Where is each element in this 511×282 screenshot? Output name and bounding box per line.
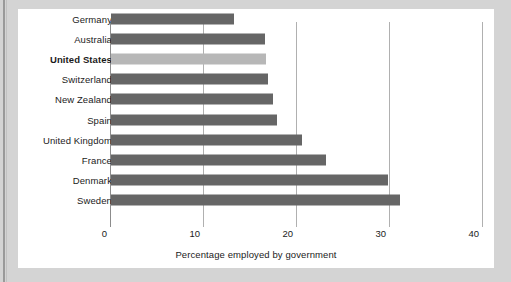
category-label-united-kingdom: United Kingdom — [43, 134, 112, 145]
category-label-denmark: Denmark — [73, 174, 112, 185]
page-gutter-rule-secondary — [6, 0, 7, 282]
x-axis-title: Percentage employed by government — [18, 249, 494, 260]
figure-root: GermanyAustraliaUnited StatesSwitzerland… — [0, 0, 511, 282]
bar-spain — [111, 114, 277, 125]
bar-denmark — [111, 174, 388, 185]
x-tick-label-40: 40 — [468, 228, 482, 239]
bar-row: Spain — [18, 109, 494, 129]
category-label-france: France — [82, 154, 112, 165]
x-tick-label-20: 20 — [282, 228, 296, 239]
bar-chart: GermanyAustraliaUnited StatesSwitzerland… — [18, 9, 494, 268]
x-tick-label-30: 30 — [375, 228, 389, 239]
x-tick-label-10: 10 — [189, 228, 203, 239]
bar-row: Sweden — [18, 190, 494, 210]
bar-switzerland — [111, 74, 268, 85]
category-label-united-states: United States — [50, 54, 112, 65]
category-label-spain: Spain — [87, 114, 112, 125]
x-tick-label-0: 0 — [102, 228, 110, 239]
bar-new-zealand — [111, 94, 273, 105]
bar-row: Germany — [18, 9, 494, 29]
category-label-australia: Australia — [74, 34, 112, 45]
bar-row: New Zealand — [18, 89, 494, 109]
chart-panel: GermanyAustraliaUnited StatesSwitzerland… — [18, 9, 494, 268]
category-label-new-zealand: New Zealand — [55, 94, 112, 105]
bar-united-states — [111, 54, 266, 65]
bar-australia — [111, 34, 265, 45]
bar-row: France — [18, 150, 494, 170]
bar-france — [111, 154, 326, 165]
category-label-sweden: Sweden — [77, 194, 112, 205]
bar-row: Denmark — [18, 170, 494, 190]
bar-row: United States — [18, 49, 494, 69]
bar-row: Switzerland — [18, 69, 494, 89]
bar-row: Australia — [18, 29, 494, 49]
page-gutter-rule — [3, 0, 5, 282]
bar-sweden — [111, 194, 400, 205]
bar-united-kingdom — [111, 134, 302, 145]
category-label-switzerland: Switzerland — [62, 74, 112, 85]
category-label-germany: Germany — [72, 14, 112, 25]
bar-row: United Kingdom — [18, 130, 494, 150]
bar-row-group: GermanyAustraliaUnited StatesSwitzerland… — [18, 9, 494, 210]
bar-germany — [111, 14, 234, 25]
